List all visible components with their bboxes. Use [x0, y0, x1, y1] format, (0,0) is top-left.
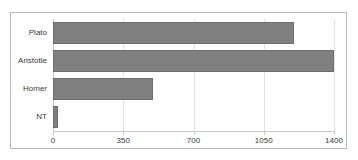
bar-row: Aristotle	[53, 47, 334, 75]
category-label: NT	[36, 103, 47, 131]
plot-wrap: PlatoAristotleHomerNT 035070010501400	[11, 13, 346, 148]
x-tick-mark	[264, 131, 265, 135]
bar	[53, 50, 334, 72]
bar	[53, 22, 294, 44]
category-label: Homer	[23, 75, 47, 103]
category-label: Plato	[29, 19, 47, 47]
x-tick-mark	[53, 131, 54, 135]
bar	[53, 78, 153, 100]
x-tick-label: 0	[51, 136, 55, 145]
plot-area: PlatoAristotleHomerNT	[53, 19, 334, 131]
x-tick-label: 350	[117, 136, 130, 145]
category-label: Aristotle	[18, 47, 47, 75]
bar-row: NT	[53, 103, 334, 131]
bar	[53, 106, 58, 128]
x-tick-mark	[123, 131, 124, 135]
x-tick-label: 1400	[325, 136, 343, 145]
chart-frame: PlatoAristotleHomerNT 035070010501400	[10, 12, 347, 149]
x-tick-label: 700	[187, 136, 200, 145]
gridline-1400	[334, 19, 335, 131]
x-tick-mark	[334, 131, 335, 135]
bar-row: Homer	[53, 75, 334, 103]
bar-row: Plato	[53, 19, 334, 47]
x-tick-mark	[194, 131, 195, 135]
x-tick-label: 1050	[255, 136, 273, 145]
